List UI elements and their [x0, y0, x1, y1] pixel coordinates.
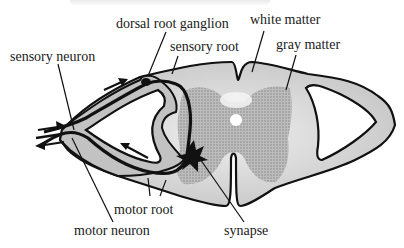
- label-synapse: synapse: [224, 223, 268, 238]
- dorsal-root-ganglion-body: [141, 78, 151, 86]
- leader-dorsal-root-ganglion: [148, 32, 166, 76]
- outgoing-arrow-icon: [35, 141, 64, 150]
- label-motor-root: motor root: [114, 202, 174, 217]
- label-white-matter: white matter: [250, 12, 321, 27]
- label-motor-neuron: motor neuron: [74, 223, 150, 238]
- commissure-highlight: [220, 92, 252, 108]
- leader-sensory-neuron: [58, 64, 74, 130]
- central-canal: [230, 114, 242, 126]
- diagram-canvas: dorsal root ganglion white matter sensor…: [0, 0, 404, 248]
- spinal-cord-diagram: dorsal root ganglion white matter sensor…: [0, 0, 404, 248]
- label-dorsal-root-ganglion: dorsal root ganglion: [116, 16, 229, 31]
- label-sensory-root: sensory root: [170, 39, 239, 54]
- label-sensory-neuron: sensory neuron: [10, 49, 95, 64]
- label-gray-matter: gray matter: [276, 37, 340, 52]
